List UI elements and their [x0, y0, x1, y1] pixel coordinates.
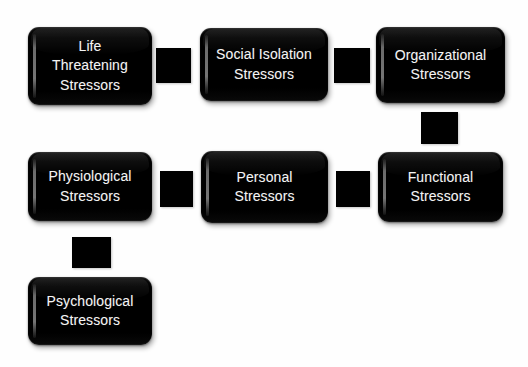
node-label: Functional Stressors: [408, 168, 474, 206]
node-physiological-stressors[interactable]: Physiological Stressors: [28, 152, 152, 221]
node-label: Personal Stressors: [234, 168, 294, 206]
node-personal-stressors[interactable]: Personal Stressors: [201, 151, 328, 223]
node-label: Social Isolation Stressors: [216, 45, 312, 83]
diagram-canvas: Life Threatening StressorsSocial Isolati…: [0, 0, 528, 367]
connector-social-isolation-to-organizational: [334, 48, 370, 83]
connector-personal-to-functional: [336, 171, 370, 207]
connector-physiological-to-psychological: [72, 237, 111, 268]
connector-physiological-to-personal: [160, 171, 193, 207]
node-social-isolation-stressors[interactable]: Social Isolation Stressors: [200, 28, 328, 101]
node-label: Psychological Stressors: [47, 292, 134, 330]
node-label: Organizational Stressors: [395, 46, 487, 84]
node-functional-stressors[interactable]: Functional Stressors: [378, 152, 503, 222]
connector-organizational-to-functional: [421, 112, 458, 144]
node-psychological-stressors[interactable]: Psychological Stressors: [28, 277, 152, 345]
node-life-threatening-stressors[interactable]: Life Threatening Stressors: [28, 27, 152, 105]
node-label: Physiological Stressors: [48, 167, 131, 205]
node-organizational-stressors[interactable]: Organizational Stressors: [376, 27, 505, 103]
connector-life-threatening-to-social-isolation: [156, 48, 191, 83]
node-label: Life Threatening Stressors: [52, 37, 128, 94]
